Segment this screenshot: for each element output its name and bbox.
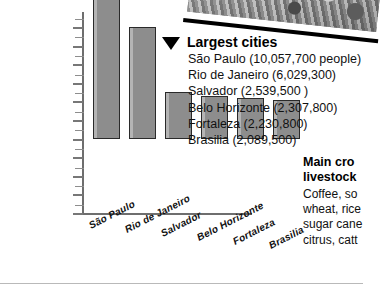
main-crops-body-line: wheat, rice [303,202,383,217]
legend-header: Largest cities [162,34,363,50]
legend-item: São Paulo (10,057,700 people) [188,51,363,67]
legend-block: Largest cities São Paulo (10,057,700 peo… [162,34,363,148]
main-crops-heading-line1: Main cro [303,155,383,170]
triangle-down-icon [162,37,180,50]
bottom-divider [0,283,363,284]
main-crops-body-line: citrus, catt [303,233,383,248]
legend-item: Brasilia (2,089,500) [188,132,363,148]
legend-item: Belo Horizonte (2,307,800) [188,100,363,116]
main-crops-body-line: Coffee, so [303,187,383,202]
bar [93,0,120,139]
legend-item: Salvador (2,539,500 ) [188,83,363,99]
bar [129,27,156,139]
legend-title: Largest cities [187,34,277,50]
legend-item: Fortaleza (2,230,800) [188,116,363,132]
main-crops-body-line: sugar cane [303,217,383,232]
legend-item: Rio de Janeiro (6,029,300) [188,67,363,83]
main-crops-body: Coffee, sowheat, ricesugar canecitrus, c… [303,187,383,248]
main-crops-heading-line2: livestock [303,170,383,185]
legend-item-list: São Paulo (10,057,700 people)Rio de Jane… [162,51,363,148]
main-crops-panel: Main cro livestock Coffee, sowheat, rice… [303,155,383,248]
